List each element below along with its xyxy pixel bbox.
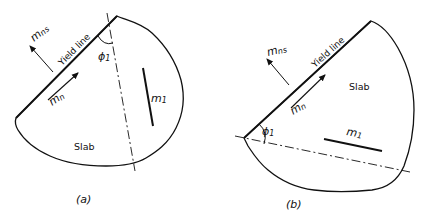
m1-label-a: m1 xyxy=(151,92,167,105)
panel-a: mns Yield line mn ϕ1 m1 Slab (a) xyxy=(15,13,183,206)
mns-label-b: mns xyxy=(265,41,288,59)
axis-line-a xyxy=(107,13,135,171)
mns-arrow-a xyxy=(30,46,53,72)
yield-line-label-a: Yield line xyxy=(56,31,93,68)
m1-label-b: m1 xyxy=(345,125,363,141)
axis-line-b xyxy=(235,136,410,172)
yield-line-label-b: Yield line xyxy=(309,35,347,71)
phi-arc-a xyxy=(98,36,113,44)
panel-b: mns Yield line mn ϕ1 m1 Slab (b) xyxy=(235,21,414,211)
caption-b: (b) xyxy=(286,198,302,211)
yield-line-b xyxy=(244,21,371,138)
phi-label-a: ϕ1 xyxy=(98,50,110,63)
mns-label-a: mns xyxy=(28,22,52,45)
slab-label-a: Slab xyxy=(74,141,95,152)
slab-label-b: Slab xyxy=(349,81,370,92)
caption-a: (a) xyxy=(76,193,91,206)
mns-arrow-b xyxy=(267,59,289,85)
phi-label-b: ϕ1 xyxy=(262,125,274,138)
m1-bar-b xyxy=(324,139,382,151)
yield-line-diagram: mns Yield line mn ϕ1 m1 Slab (a) mns Yie… xyxy=(0,0,431,222)
